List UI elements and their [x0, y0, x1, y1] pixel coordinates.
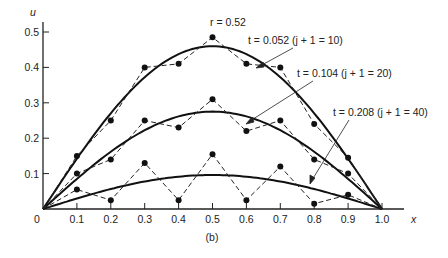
y-tick-label: 0.4 [24, 61, 39, 73]
data-point [176, 125, 182, 131]
y-tick-label: 0.1 [24, 168, 39, 180]
y-axis-label: u [30, 6, 36, 18]
x-tick-label: 0.2 [103, 213, 118, 225]
data-point [277, 164, 283, 170]
x-tick-label: 0.3 [137, 213, 152, 225]
chart: 0.10.20.30.40.50.60.70.80.91.0 0.10.20.3… [0, 0, 448, 258]
numerical-curve [43, 154, 382, 209]
data-point [345, 155, 351, 161]
data-point [277, 64, 283, 70]
subfigure-label: (b) [206, 231, 219, 243]
data-point [210, 34, 216, 40]
data-point [345, 192, 351, 198]
data-point [142, 160, 148, 166]
annotation-t3: t = 0.208 (j + 1 = 40) [333, 106, 428, 118]
data-point [176, 61, 182, 67]
x-tick-label: 0.1 [70, 213, 85, 225]
data-point [243, 128, 249, 134]
annotation-r: r = 0.52 [210, 16, 246, 28]
data-point [108, 156, 114, 162]
data-point [210, 96, 216, 102]
numerical-curve [43, 37, 382, 209]
x-tick-label: 0.7 [273, 213, 288, 225]
x-tick-label: 0.9 [341, 213, 356, 225]
data-point [108, 197, 114, 203]
annotation-t1: t = 0.052 (j + 1 = 10) [248, 34, 343, 46]
y-tick-label: 0.3 [24, 97, 39, 109]
data-point [74, 187, 80, 193]
x-tick-label: 0.4 [171, 213, 186, 225]
data-point [74, 153, 80, 159]
origin-label: 0 [34, 213, 40, 225]
numerical-solution-curves [43, 34, 382, 209]
x-tick-label: 0.6 [239, 213, 254, 225]
y-ticks: 0.10.20.30.40.5 [24, 26, 49, 180]
data-point [311, 201, 317, 207]
data-point [311, 156, 317, 162]
y-tick-label: 0.5 [24, 26, 39, 38]
arrow-t3 [312, 120, 349, 180]
data-point [243, 197, 249, 203]
annotations: r = 0.52 t = 0.052 (j + 1 = 10) t = 0.10… [210, 16, 428, 184]
data-point [345, 171, 351, 177]
data-point [311, 121, 317, 127]
data-point [277, 118, 283, 124]
x-tick-label: 0.5 [205, 213, 220, 225]
x-tick-label: 1.0 [375, 213, 390, 225]
x-axis-label: x [410, 213, 417, 225]
y-tick-label: 0.2 [24, 132, 39, 144]
data-point [142, 64, 148, 70]
x-tick-label: 0.8 [307, 213, 322, 225]
arrow-t1 [260, 48, 293, 66]
data-point [108, 118, 114, 124]
data-point [210, 151, 216, 157]
data-point [243, 61, 249, 67]
data-point [176, 197, 182, 203]
annotation-t2: t = 0.104 (j + 1 = 20) [297, 67, 392, 79]
x-ticks: 0.10.20.30.40.50.60.70.80.91.0 [70, 203, 390, 225]
data-point [74, 171, 80, 177]
data-point [142, 118, 148, 124]
